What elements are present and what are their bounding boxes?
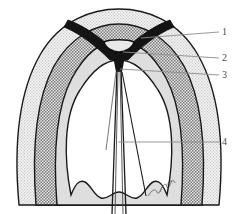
label-number-2: 2 bbox=[222, 53, 227, 63]
label-number-1: 1 bbox=[222, 27, 227, 37]
anatomical-diagram bbox=[0, 0, 238, 214]
figure-root: 1 2 3 4 bbox=[0, 0, 238, 214]
label-number-4: 4 bbox=[222, 137, 227, 147]
label-number-3: 3 bbox=[222, 70, 227, 80]
